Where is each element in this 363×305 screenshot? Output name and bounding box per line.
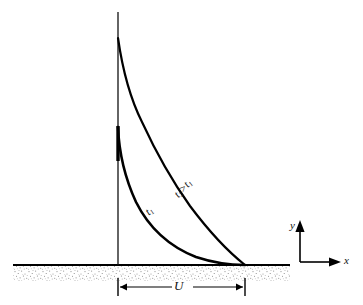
dimension-U-right-arrowhead: [236, 284, 243, 291]
figure-canvas: [0, 0, 363, 305]
dimension-label-U: U: [174, 279, 183, 292]
axis-label-x: x: [344, 255, 349, 266]
axis-label-y: y: [290, 220, 295, 231]
curve-t2-greater-t1: [118, 38, 245, 265]
axis-key: [295, 220, 341, 267]
axis-key-y-arrowhead: [295, 220, 304, 232]
axis-key-x-arrowhead: [329, 257, 341, 266]
dimension-U-left-arrowhead: [120, 284, 127, 291]
figure-container: t1 t2>t1 U x y: [0, 0, 363, 305]
ground-stipple-band: [13, 266, 290, 281]
